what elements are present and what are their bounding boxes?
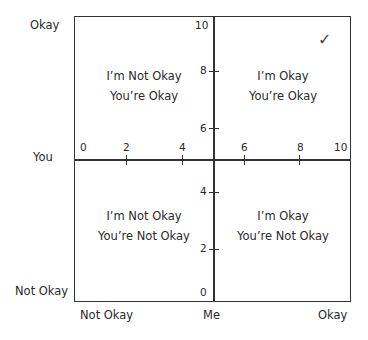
horizontal-axis [74, 159, 351, 161]
x-axis-right-label: Okay [318, 308, 347, 322]
v-tick-label-4: 4 [200, 185, 207, 197]
quadrant-line-2: You’re Okay [74, 86, 214, 106]
h-tick-label-2: 2 [123, 141, 130, 153]
h-tick-6 [244, 155, 245, 165]
x-axis-left-label: Not Okay [80, 308, 133, 322]
h-tick-8 [299, 155, 300, 165]
quadrant-top-left: I’m Not Okay You’re Okay [74, 66, 214, 106]
y-axis-bottom-label: Not Okay [15, 284, 68, 298]
h-tick-label-4: 4 [179, 141, 186, 153]
v-tick-label-6: 6 [200, 122, 207, 134]
v-tick-label-10: 10 [195, 19, 208, 31]
y-axis-middle-label: You [33, 150, 53, 164]
check-mark-icon: ✓ [318, 30, 331, 49]
quadrant-line-1: I’m Not Okay [74, 206, 214, 226]
quadrant-bottom-left: I’m Not Okay You’re Not Okay [74, 206, 214, 246]
h-tick-label-8: 8 [297, 141, 304, 153]
v-tick-4 [209, 192, 219, 193]
x-axis-middle-label: Me [203, 308, 220, 322]
quadrant-bottom-right: I’m Okay You’re Not Okay [213, 206, 353, 246]
v-tick-6 [209, 128, 219, 129]
v-tick-label-0: 0 [200, 286, 207, 298]
quadrant-line-1: I’m Not Okay [74, 66, 214, 86]
quadrant-line-2: You’re Okay [213, 86, 353, 106]
v-tick-2 [209, 249, 219, 250]
h-tick-label-10: 10 [334, 141, 347, 153]
y-axis-top-label: Okay [30, 18, 59, 32]
quadrant-line-1: I’m Okay [213, 206, 353, 226]
h-tick-4 [182, 155, 183, 165]
h-tick-2 [126, 155, 127, 165]
h-tick-label-6: 6 [241, 141, 248, 153]
quadrant-top-right: I’m Okay You’re Okay [213, 66, 353, 106]
quadrant-line-1: I’m Okay [213, 66, 353, 86]
quadrant-line-2: You’re Not Okay [74, 226, 214, 246]
h-tick-label-0: 0 [80, 141, 87, 153]
quadrant-line-2: You’re Not Okay [213, 226, 353, 246]
